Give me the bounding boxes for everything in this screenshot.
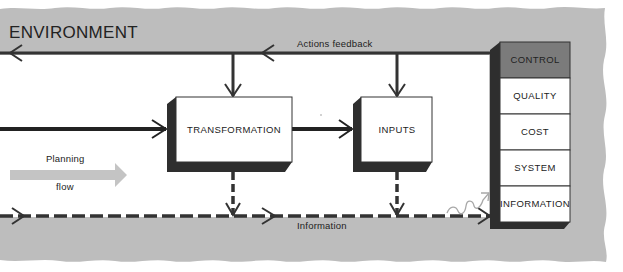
quality-label: QUALITY	[513, 90, 557, 101]
environment-diagram: ENVIRONMENT Actions feedback TRANSFORMAT…	[0, 0, 623, 272]
inputs-label: INPUTS	[378, 124, 415, 135]
transformation-label: TRANSFORMATION	[187, 124, 281, 135]
actions-feedback-label: Actions feedback	[297, 38, 373, 49]
planning-label: Planning	[46, 153, 85, 164]
control-label: CONTROL	[510, 54, 559, 65]
speck	[320, 114, 322, 116]
environment-title: ENVIRONMENT	[9, 23, 138, 42]
cost-label: COST	[521, 126, 549, 137]
information-label: Information	[297, 220, 347, 231]
system-label: SYSTEM	[514, 162, 555, 173]
control-stack: CONTROL QUALITY COST SYSTEM INFORMATION	[490, 42, 570, 229]
inputs-box: INPUTS	[353, 97, 432, 172]
flow-label: flow	[56, 181, 74, 192]
information-cell-label: INFORMATION	[500, 198, 570, 209]
transformation-box: TRANSFORMATION	[167, 97, 292, 172]
